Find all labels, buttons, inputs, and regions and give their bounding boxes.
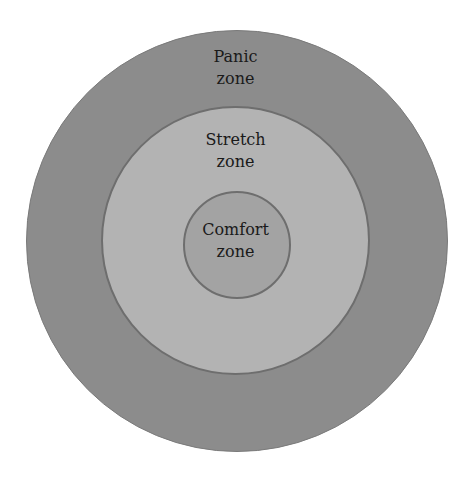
panic-zone-label-line1: Panic: [0, 46, 471, 68]
comfort-zone-label-line1: Comfort: [0, 219, 471, 241]
panic-zone-label-line2: zone: [0, 68, 471, 90]
panic-zone-label: Panic zone: [0, 46, 471, 90]
stretch-zone-label-line1: Stretch: [0, 129, 471, 151]
comfort-zone-label-line2: zone: [0, 241, 471, 263]
stretch-zone-label-line2: zone: [0, 151, 471, 173]
comfort-zone-diagram: Panic zone Stretch zone Comfort zone: [0, 0, 471, 484]
stretch-zone-label: Stretch zone: [0, 129, 471, 173]
comfort-zone-label: Comfort zone: [0, 219, 471, 263]
